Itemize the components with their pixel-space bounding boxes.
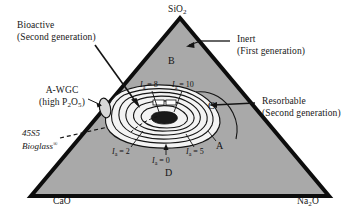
callout-inert-line1: Inert [237, 34, 352, 46]
ternary-bioactivity-figure: SiO2 CaO Na2O Bioactive (Second generati… [0, 0, 359, 216]
contour-label-ia-10: Ia = 10 [172, 80, 194, 90]
contour-label-ia-0: Ia = 0 [152, 156, 170, 166]
callout-bioglass: 45S5 Bioglass® [22, 128, 58, 151]
contour-core [151, 112, 177, 124]
callout-a-wgc-line1: A-WGC [24, 85, 100, 97]
region-label-a: A [216, 140, 223, 151]
vertex-label-sio2: SiO2 [168, 4, 187, 18]
callout-resorbable-line1: Resorbable [262, 96, 359, 108]
region-label-b: B [168, 55, 175, 66]
callout-bioactive-line2: (Second generation) [17, 32, 132, 44]
vertex-label-cao: CaO [53, 196, 71, 207]
callout-a-wgc-line2: (high P2O5) [24, 97, 100, 111]
callout-resorbable-line2: (Second generation) [262, 108, 359, 120]
callout-inert: Inert (First generation) [237, 34, 352, 57]
callout-bioglass-line1: 45S5 [22, 128, 58, 139]
composition-box-1 [153, 100, 164, 105]
region-label-d: D [165, 167, 172, 178]
callout-bioglass-line2: Bioglass® [22, 139, 58, 152]
callout-bioactive-line1: Bioactive [17, 20, 132, 32]
contour-label-ia-8: Ia = 8 [140, 80, 158, 90]
callout-inert-line2: (First generation) [237, 46, 352, 58]
contour-label-ia-5: Ia = 5 [186, 147, 204, 157]
callout-a-wgc: A-WGC (high P2O5) [24, 85, 100, 111]
composition-box-2 [166, 100, 176, 105]
vertex-label-na2o: Na2O [297, 196, 319, 210]
region-label-c: C [208, 100, 215, 111]
callout-bioactive: Bioactive (Second generation) [17, 20, 132, 43]
contour-label-ia-2: Ia = 2 [112, 147, 130, 157]
callout-resorbable: Resorbable (Second generation) [262, 96, 359, 119]
